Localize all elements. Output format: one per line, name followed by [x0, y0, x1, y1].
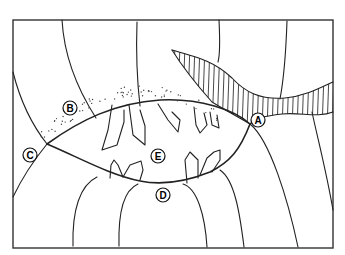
- stipple-dot: [130, 89, 131, 90]
- stipple-dot: [79, 110, 80, 111]
- stipple-dot: [72, 119, 73, 120]
- stipple-dot: [121, 88, 122, 89]
- hatch-line: [247, 45, 250, 130]
- crystal: [129, 105, 145, 145]
- stipple-dot: [166, 90, 167, 91]
- hatch-line: [187, 45, 190, 130]
- crystal: [210, 112, 219, 128]
- stipple-dot: [178, 94, 179, 95]
- hatch-line: [207, 45, 210, 130]
- label-b-text: B: [66, 103, 73, 114]
- stipple-dot: [99, 101, 100, 102]
- label-d-text: D: [159, 190, 166, 201]
- stipple-dot: [117, 92, 118, 93]
- upper-contact-lines: [13, 20, 287, 144]
- stipple-dot: [88, 107, 89, 108]
- crystal: [194, 107, 207, 133]
- hatch-line: [192, 45, 195, 130]
- stipple-dot: [120, 92, 121, 93]
- stipple-dot: [48, 130, 49, 131]
- stipple-dot: [205, 112, 206, 113]
- label-c-text: C: [26, 150, 33, 161]
- stipple-dot: [123, 92, 124, 93]
- stipple-dot: [91, 103, 92, 104]
- stipple-dot: [132, 93, 133, 94]
- stipple-dot: [89, 100, 90, 101]
- stipple-dot: [148, 90, 149, 91]
- stipple-dot: [161, 96, 162, 97]
- stipple-dot: [70, 121, 71, 122]
- hatch-line: [167, 45, 170, 130]
- label-d: D: [156, 188, 170, 202]
- stipple-dot: [89, 98, 90, 99]
- label-a-text: A: [254, 115, 261, 126]
- stipple-dot: [186, 103, 187, 104]
- stipple-dot: [155, 95, 156, 96]
- crystals: [102, 104, 220, 183]
- label-e-text: E: [155, 151, 162, 162]
- hatch-line: [172, 45, 175, 130]
- stipple-dot: [164, 96, 165, 97]
- stipple-dot: [84, 102, 85, 103]
- stipple-dot: [122, 95, 123, 96]
- hatch-line: [272, 45, 275, 130]
- label-e: E: [151, 149, 165, 163]
- stipple-dot: [151, 91, 152, 92]
- stipple-dot: [41, 131, 42, 132]
- stipple-dot: [170, 91, 171, 92]
- stipple-dot: [213, 108, 214, 109]
- stipple-dot: [62, 121, 63, 122]
- stipple-dot: [54, 131, 55, 132]
- stipple-dot: [177, 100, 178, 101]
- hatch-line: [287, 45, 290, 130]
- stipple-dot: [216, 118, 217, 119]
- hatch-line: [227, 45, 230, 130]
- stipple-dot: [54, 120, 55, 121]
- hatch-line: [267, 45, 270, 130]
- stipple-dot: [142, 95, 143, 96]
- stipple-dot: [114, 98, 115, 99]
- hatch-line: [222, 45, 225, 130]
- crystal: [158, 104, 180, 132]
- stipple-dot: [126, 94, 127, 95]
- stipple-dot: [82, 110, 83, 111]
- stipple-dot: [123, 96, 124, 97]
- label-b: B: [63, 101, 77, 115]
- label-c: C: [23, 148, 37, 162]
- diagram-canvas: A B C D E: [0, 0, 345, 255]
- stipple-dot: [198, 100, 199, 101]
- cavity-e-outline: [47, 100, 250, 183]
- hatch-line: [327, 45, 330, 130]
- stipple-dot: [61, 124, 62, 125]
- stipple-dot: [180, 95, 181, 96]
- stipple-dot: [141, 91, 142, 92]
- stipple-dot: [211, 108, 212, 109]
- stipple-dot: [124, 87, 125, 88]
- hatch-line: [212, 45, 215, 130]
- hatch-line: [317, 45, 320, 130]
- stipple-dot: [56, 118, 57, 119]
- lower-contact-lines: [13, 112, 333, 247]
- stipple-dot: [82, 104, 83, 105]
- hatch-line: [302, 45, 305, 130]
- stipple-dot: [164, 94, 165, 95]
- stipple-dot: [65, 121, 66, 122]
- stipple-dot: [128, 91, 129, 92]
- stipple-dot: [92, 99, 93, 100]
- stipple-dot: [41, 136, 42, 137]
- hatch-line: [307, 45, 310, 130]
- stipple-dot: [195, 108, 196, 109]
- stipple-dot: [139, 85, 140, 86]
- stipple-dot: [44, 136, 45, 137]
- stipple-dot: [131, 95, 132, 96]
- stipple-dot: [143, 90, 144, 91]
- stipple-dot: [162, 87, 163, 88]
- hatch-line: [182, 45, 185, 130]
- hatch-line: [297, 45, 300, 130]
- stipple-dot: [62, 116, 63, 117]
- stipple-dot: [104, 99, 105, 100]
- hatch-line: [232, 45, 235, 130]
- hatch-line: [277, 45, 280, 130]
- hatch-line: [292, 45, 295, 130]
- stipple-dot: [51, 129, 52, 130]
